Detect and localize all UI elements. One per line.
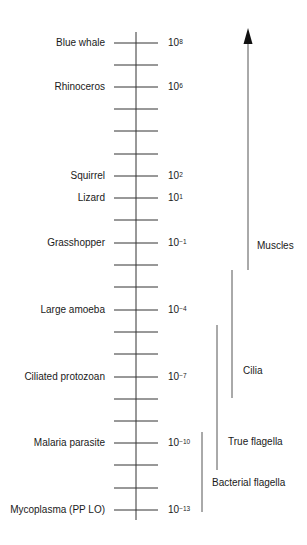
range-label-cilia: Cilia [243, 365, 262, 377]
range-label-muscles: Muscles [257, 240, 294, 252]
organism-label-grasshopper: Grasshopper [0, 237, 105, 249]
organism-label-lizard: Lizard [0, 192, 105, 204]
organism-label-rhinoceros: Rhinoceros [0, 81, 105, 93]
size-value-malaria-parasite: 10−10 [168, 437, 190, 449]
organism-label-squirrel: Squirrel [0, 170, 105, 182]
organism-label-large-amoeba: Large amoeba [0, 304, 105, 316]
size-value-mycoplasma: 10−13 [168, 504, 190, 516]
range-label-bacterial-flagella: Bacterial flagella [212, 477, 285, 489]
organism-label-ciliated-protozoan: Ciliated protozoan [0, 371, 105, 383]
size-value-large-amoeba: 10−4 [168, 304, 187, 316]
size-value-squirrel: 102 [168, 170, 183, 182]
size-value-lizard: 101 [168, 192, 183, 204]
range-label-true-flagella: True flagella [228, 436, 283, 448]
size-value-blue-whale: 108 [168, 37, 183, 49]
size-value-grasshopper: 10−1 [168, 237, 187, 249]
size-value-rhinoceros: 106 [168, 81, 183, 93]
size-scale-diagram: Blue whale Rhinoceros Squirrel Lizard Gr… [0, 0, 307, 545]
organism-label-malaria-parasite: Malaria parasite [0, 437, 105, 449]
organism-label-mycoplasma: Mycoplasma (PP LO) [0, 504, 105, 516]
muscles-range-arrow [244, 28, 253, 270]
size-value-ciliated-protozoan: 10−7 [168, 371, 187, 383]
organism-label-blue-whale: Blue whale [0, 37, 105, 49]
arrowhead-icon [244, 28, 253, 44]
